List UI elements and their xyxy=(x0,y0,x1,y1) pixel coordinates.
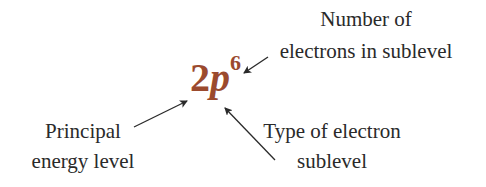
arrows-layer xyxy=(0,0,486,187)
arrow-electron-count xyxy=(244,57,268,73)
arrow-sublevel-type xyxy=(225,108,275,160)
arrow-principal-level xyxy=(134,101,187,127)
